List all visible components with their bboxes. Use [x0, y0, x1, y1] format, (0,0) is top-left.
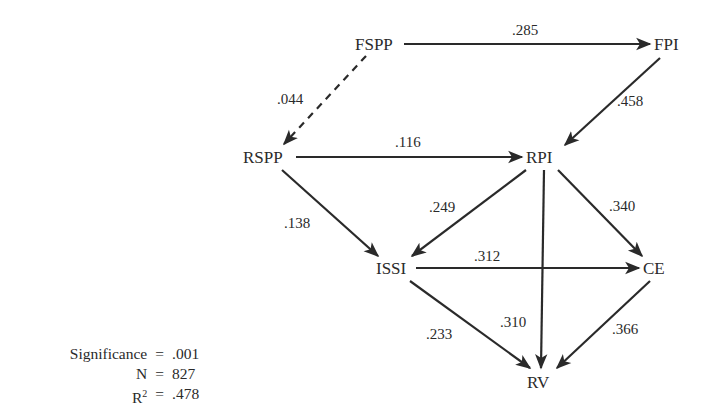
node-rspp: RSPP — [243, 148, 283, 167]
n-value: 827 — [172, 364, 210, 384]
equals-sign: = — [147, 344, 172, 364]
node-ce: CE — [643, 259, 665, 278]
stat-r-squared: R2 = .478 — [40, 384, 210, 408]
edge-rspp-issi — [282, 170, 378, 256]
coef-fpi-rpi: .458 — [617, 93, 643, 109]
r2-letter: R — [132, 389, 142, 406]
model-statistics: Significance = .001 N = 827 R2 = .478 — [40, 344, 210, 408]
n-label: N — [136, 364, 147, 384]
node-issi: ISSI — [376, 259, 407, 278]
coef-fspp-fpi: .285 — [512, 22, 538, 38]
node-rv: RV — [527, 373, 550, 392]
r2-value: .478 — [172, 384, 210, 408]
equals-sign: = — [147, 384, 172, 408]
node-rpi: RPI — [526, 148, 553, 167]
coef-rpi-ce: .340 — [609, 198, 635, 214]
significance-label: Significance — [70, 344, 147, 364]
equals-sign: = — [147, 364, 172, 384]
node-fspp: FSPP — [355, 35, 393, 54]
edge-fpi-rpi — [565, 58, 660, 145]
node-fpi: FPI — [654, 35, 679, 54]
stat-n: N = 827 — [40, 364, 210, 384]
stat-significance: Significance = .001 — [40, 344, 210, 364]
coef-ce-rv: .366 — [612, 321, 639, 337]
coef-issi-rv: .233 — [426, 326, 452, 342]
r2-label: R2 — [132, 384, 147, 408]
coef-rpi-rv: .310 — [500, 314, 526, 330]
coef-rpi-issi: .249 — [429, 199, 455, 215]
coef-issi-ce: .312 — [474, 248, 500, 264]
coef-rspp-rpi: .116 — [395, 134, 421, 150]
significance-value: .001 — [172, 344, 210, 364]
coef-fspp-rspp: .044 — [277, 91, 304, 107]
coef-rspp-issi: .138 — [284, 215, 310, 231]
